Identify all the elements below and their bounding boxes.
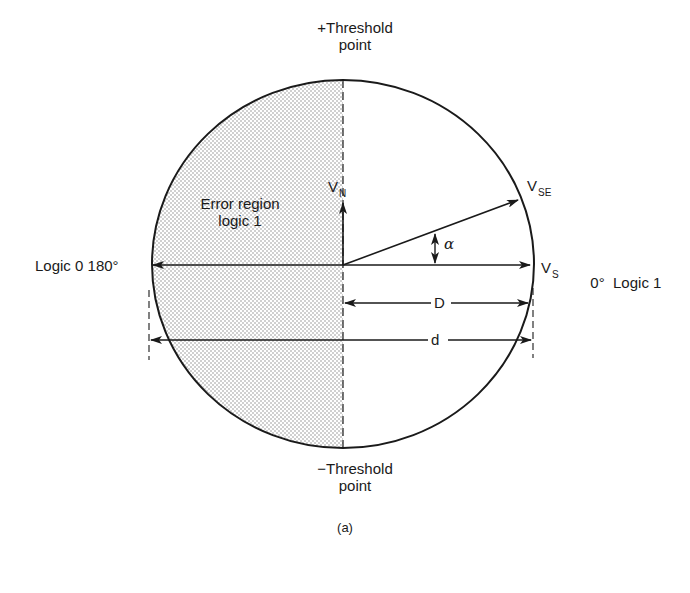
figure-caption: (a) <box>320 519 370 536</box>
error-region-line1: Error region <box>185 195 295 212</box>
error-region-label: Error region logic 1 <box>185 195 295 229</box>
vse-label: VSE <box>527 177 551 196</box>
plus-threshold-line1: +Threshold <box>290 19 420 36</box>
plus-threshold-label: +Threshold point <box>290 19 420 53</box>
vs-label: VS <box>541 259 559 278</box>
d-dimension-label: d <box>431 331 439 348</box>
vse-main: V <box>527 177 537 194</box>
alpha-angle-label: α <box>444 236 454 253</box>
vse-sub: SE <box>538 187 551 198</box>
vn-main: V <box>328 178 338 195</box>
logic-1-label: 0° Logic 1 <box>582 257 661 291</box>
minus-threshold-line1: −Threshold <box>290 460 420 477</box>
vs-sub: S <box>552 269 559 280</box>
minus-threshold-line2: point <box>290 477 420 494</box>
logic-0-label: Logic 0 180° <box>35 257 119 274</box>
vs-main: V <box>541 259 551 276</box>
vse-vector-arrow <box>343 200 518 265</box>
minus-threshold-label: −Threshold point <box>290 460 420 494</box>
D-dimension-label: D <box>434 294 445 311</box>
error-region-line2: logic 1 <box>185 212 295 229</box>
vn-label: VN <box>328 178 346 197</box>
phasor-diagram <box>0 0 690 593</box>
vn-sub: N <box>339 188 346 199</box>
plus-threshold-line2: point <box>290 36 420 53</box>
